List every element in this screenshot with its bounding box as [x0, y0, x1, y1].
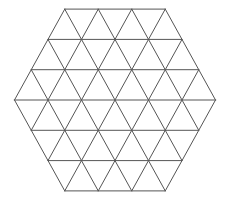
grid-line-diagonal-down — [165, 9, 215, 100]
grid-line-diagonal-up — [98, 39, 182, 191]
grid-line-diagonal-up — [165, 100, 215, 191]
grid-line-diagonal-down — [98, 9, 182, 161]
grid-line-diagonal-up — [15, 9, 65, 100]
grid-line-diagonal-down — [48, 39, 132, 191]
grid-line-diagonal-down — [15, 100, 65, 191]
grid-line-diagonal-up — [48, 9, 132, 161]
triangular-grid-hexagon — [0, 0, 229, 202]
grid-lines — [15, 9, 216, 191]
